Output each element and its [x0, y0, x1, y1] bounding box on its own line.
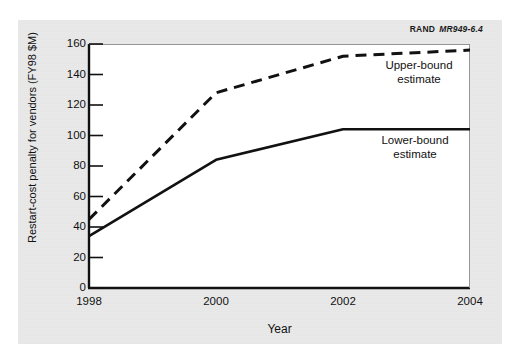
chart-canvas — [0, 0, 519, 364]
y-axis-title: Restart-cost penalty for vendors (FY98 $… — [26, 33, 38, 243]
annotation-lower-bound-line1: Lower-bound — [360, 133, 470, 147]
annotation-lower-bound: Lower-bound estimate — [360, 133, 470, 161]
annotation-upper-bound-line2: estimate — [364, 72, 474, 86]
ytick-label-100: 100 — [46, 130, 86, 141]
xtick-label-2000: 2000 — [186, 295, 246, 307]
ytick-label-80: 80 — [46, 160, 86, 171]
ytick-label-160: 160 — [46, 38, 86, 49]
xtick-label-2004: 2004 — [440, 295, 500, 307]
x-axis-title: Year — [89, 322, 470, 336]
ytick-label-20: 20 — [46, 252, 86, 263]
xtick-label-2002: 2002 — [313, 295, 373, 307]
ytick-label-60: 60 — [46, 191, 86, 202]
annotation-lower-bound-line2: estimate — [360, 147, 470, 161]
annotation-upper-bound-line1: Upper-bound — [364, 58, 474, 72]
xtick-label-1998: 1998 — [59, 295, 119, 307]
ytick-label-140: 140 — [46, 69, 86, 80]
y-tick-marks — [89, 44, 103, 288]
chart-figure: RANDMR949-6.4 160 140 120 100 — [0, 0, 519, 364]
ytick-label-0: 0 — [46, 282, 86, 293]
annotation-upper-bound: Upper-bound estimate — [364, 58, 474, 86]
ytick-label-120: 120 — [46, 99, 86, 110]
ytick-label-40: 40 — [46, 221, 86, 232]
